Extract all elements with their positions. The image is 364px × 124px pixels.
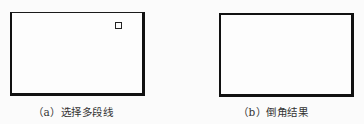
- polyline-rectangle-a: [10, 12, 145, 96]
- caption-b: （b）倒角结果: [238, 104, 308, 119]
- caption-a: （a）选择多段线: [33, 104, 113, 119]
- polyline-rectangle-b: [219, 13, 354, 97]
- square-grip-icon: [115, 22, 122, 29]
